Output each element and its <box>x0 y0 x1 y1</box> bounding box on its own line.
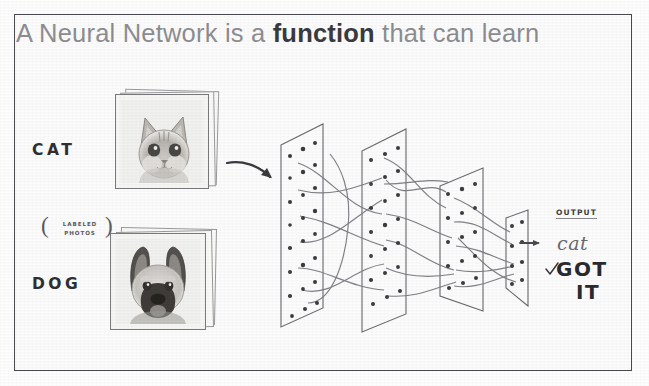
layer-nodes-hidden-2 <box>446 182 478 290</box>
slide-canvas: A Neural Network is a function that can … <box>0 0 649 386</box>
output-verdict-line-2: IT <box>576 281 636 304</box>
output-verdict-line-1: GOT <box>556 257 608 281</box>
photo-dog <box>110 233 206 330</box>
input-label-dog: DOG <box>32 275 81 293</box>
output-prediction: cat <box>557 232 588 254</box>
layer-plane-input <box>281 124 323 327</box>
neural-network-diagram <box>278 118 548 333</box>
page-title: A Neural Network is a function that can … <box>16 16 606 50</box>
layer-plane-output <box>506 210 528 306</box>
photo-cat-image <box>121 100 203 183</box>
title-text-before: A Neural Network is a <box>16 19 273 47</box>
photo-stack-cat <box>112 88 218 188</box>
input-label-cat: CAT <box>32 141 75 159</box>
output-verdict: GOT IT <box>556 258 636 304</box>
output-arrow-icon <box>516 232 552 254</box>
title-text-after: that can learn <box>375 19 540 47</box>
photo-dog-image <box>116 239 200 324</box>
cat-drawing-icon <box>121 100 203 183</box>
layer-nodes-hidden-1 <box>369 146 402 306</box>
photo-stack-dog <box>106 226 216 330</box>
layer-plane-hidden-1 <box>362 129 406 332</box>
dog-drawing-icon <box>116 239 200 324</box>
title-text-bold: function <box>273 19 375 47</box>
photo-cat <box>115 94 209 189</box>
output-heading: OUTPUT <box>556 208 597 219</box>
